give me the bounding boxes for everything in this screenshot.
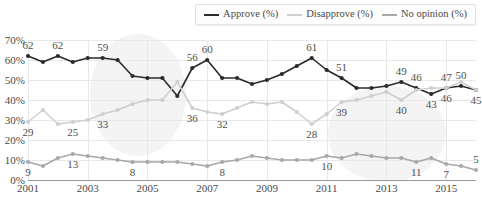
data-point — [354, 152, 358, 156]
data-point — [369, 94, 373, 98]
data-point — [205, 58, 209, 62]
data-point — [116, 158, 120, 162]
data-point-label: 13 — [67, 159, 78, 170]
data-point — [325, 154, 329, 158]
data-point — [384, 156, 388, 160]
data-point — [145, 76, 149, 80]
data-point — [56, 156, 60, 160]
x-axis-tick-label: 2005 — [136, 183, 158, 194]
data-point-label: 11 — [411, 167, 422, 178]
data-point-label: 61 — [306, 42, 317, 53]
data-point — [56, 54, 60, 58]
data-point — [310, 56, 314, 60]
data-point-label: 7 — [443, 169, 449, 180]
data-point — [369, 154, 373, 158]
x-axis-tick-label: 2007 — [196, 183, 218, 194]
plot-area: 0%10%20%30%40%50%60%70%20012003200520072… — [28, 40, 476, 180]
data-point — [175, 94, 179, 98]
data-point — [295, 110, 299, 114]
data-point — [160, 76, 164, 80]
legend-label-no-opinion: No opinion (%) — [401, 9, 467, 20]
data-point-label: 32 — [217, 119, 228, 130]
data-point — [265, 156, 269, 160]
data-point — [265, 102, 269, 106]
x-axis-tick-label: 2015 — [435, 183, 457, 194]
data-point — [235, 158, 239, 162]
data-point — [459, 84, 463, 88]
data-point — [399, 80, 403, 84]
series-layer — [28, 40, 476, 180]
data-point — [354, 86, 358, 90]
data-point — [429, 92, 433, 96]
data-point-label: 8 — [130, 167, 136, 178]
data-point — [220, 112, 224, 116]
data-point-label: 60 — [202, 44, 213, 55]
data-point — [340, 156, 344, 160]
x-axis-tick-label: 2001 — [17, 183, 39, 194]
legend-item-disapprove: Disapprove (%) — [287, 9, 373, 20]
data-point — [250, 154, 254, 158]
legend-label-approve: Approve (%) — [223, 9, 278, 20]
data-point — [459, 164, 463, 168]
data-point-label: 9 — [25, 167, 31, 178]
data-point — [340, 76, 344, 80]
data-point — [86, 56, 90, 60]
data-point-label: 29 — [23, 127, 34, 138]
data-point — [71, 152, 75, 156]
data-point-label: 56 — [187, 52, 198, 63]
data-point — [220, 160, 224, 164]
data-point — [280, 100, 284, 104]
data-point-label: 40 — [396, 105, 407, 116]
data-point — [354, 98, 358, 102]
y-axis-tick-label: 60% — [5, 55, 25, 66]
data-point — [190, 66, 194, 70]
legend-label-disapprove: Disapprove (%) — [306, 9, 373, 20]
data-point — [26, 54, 30, 58]
data-point-label: 46 — [441, 93, 452, 104]
data-point — [310, 158, 314, 162]
data-point — [250, 100, 254, 104]
data-point — [160, 98, 164, 102]
data-point-label: 46 — [411, 72, 422, 83]
legend-swatch-disapprove — [287, 14, 302, 16]
data-point — [369, 86, 373, 90]
data-point — [325, 68, 329, 72]
data-point-label: 43 — [426, 99, 437, 110]
data-point-label: 25 — [67, 127, 78, 138]
data-point — [116, 58, 120, 62]
data-point — [429, 86, 433, 90]
data-point — [160, 160, 164, 164]
data-point-label: 59 — [97, 42, 108, 53]
data-point — [26, 120, 30, 124]
data-point — [205, 110, 209, 114]
data-point — [26, 160, 30, 164]
data-point — [71, 120, 75, 124]
legend-item-no-opinion: No opinion (%) — [382, 9, 467, 20]
data-point-label: 62 — [52, 40, 63, 51]
data-point — [295, 64, 299, 68]
y-axis-tick-label: 30% — [5, 115, 25, 126]
data-point — [71, 60, 75, 64]
data-point — [474, 168, 478, 172]
data-point-label: 45 — [471, 95, 482, 106]
data-point — [101, 112, 105, 116]
data-point — [130, 102, 134, 106]
x-axis-tick-label: 2013 — [375, 183, 397, 194]
data-point — [41, 164, 45, 168]
data-point — [41, 60, 45, 64]
data-point — [56, 122, 60, 126]
data-point — [310, 122, 314, 126]
data-point-label: 49 — [396, 66, 407, 77]
legend-swatch-approve — [204, 14, 219, 16]
data-point — [130, 74, 134, 78]
legend-swatch-no-opinion — [382, 14, 397, 16]
data-point-label: 5 — [473, 154, 479, 165]
data-point — [101, 56, 105, 60]
data-point-label: 10 — [321, 161, 332, 172]
data-point-label: 62 — [23, 40, 34, 51]
data-point — [399, 98, 403, 102]
data-point — [175, 160, 179, 164]
x-axis-tick-label: 2003 — [77, 183, 99, 194]
x-axis-tick-label: 2011 — [316, 183, 338, 194]
data-point — [265, 78, 269, 82]
